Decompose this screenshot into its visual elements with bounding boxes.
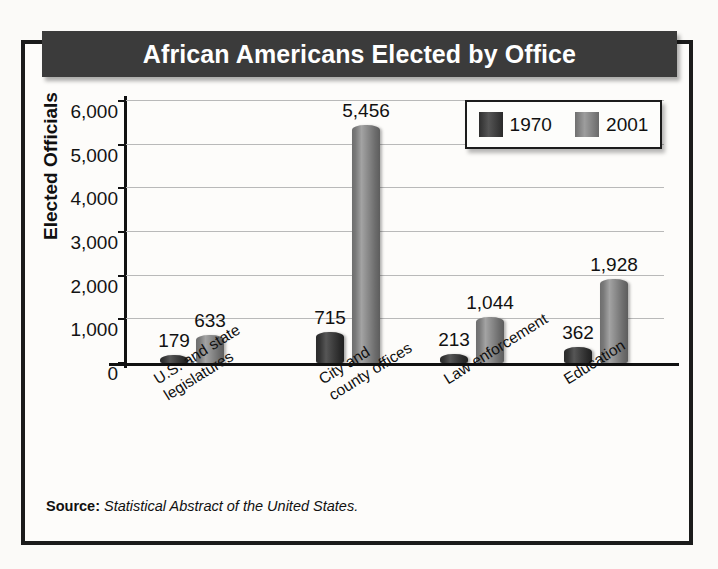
chart-title-banner: African Americans Elected by Office [42, 31, 677, 77]
legend-swatch-2001-icon [575, 112, 599, 137]
y-axis-tick-mark [118, 100, 126, 102]
chart-figure: African Americans Elected by Office 1796… [0, 0, 718, 569]
bar-value-label: 1,928 [590, 254, 638, 276]
chart-legend: 1970 2001 [465, 100, 662, 149]
y-axis-title: Elected Officials [40, 61, 62, 271]
legend-item-1970: 1970 [479, 112, 552, 137]
bar-value-label: 213 [438, 329, 470, 351]
page-title: African Americans Elected by Office [143, 40, 576, 69]
y-axis-tick-mark [118, 231, 126, 233]
legend-label-1970: 1970 [510, 114, 552, 136]
y-axis-tick-mark [118, 362, 126, 364]
bar-value-label: 715 [314, 307, 346, 329]
legend-item-2001: 2001 [575, 112, 648, 137]
legend-swatch-1970-icon [479, 112, 503, 137]
source-text: Statistical Abstract of the United State… [104, 498, 358, 514]
y-axis-tick-mark [118, 318, 126, 320]
bar-value-label: 1,044 [466, 292, 514, 314]
gridline [124, 231, 664, 232]
source-label: Source: [46, 498, 100, 514]
y-axis-tick-mark [118, 187, 126, 189]
y-axis-tick-mark [118, 144, 126, 146]
gridline [124, 187, 664, 188]
bar-value-label: 5,456 [342, 100, 390, 122]
bar-value-label: 362 [562, 322, 594, 344]
y-axis-tick-mark [118, 275, 126, 277]
legend-label-2001: 2001 [606, 114, 648, 136]
source-note: Source: Statistical Abstract of the Unit… [46, 498, 358, 514]
bar-2001-2: 5,456 [352, 125, 380, 363]
gridline [124, 275, 664, 276]
